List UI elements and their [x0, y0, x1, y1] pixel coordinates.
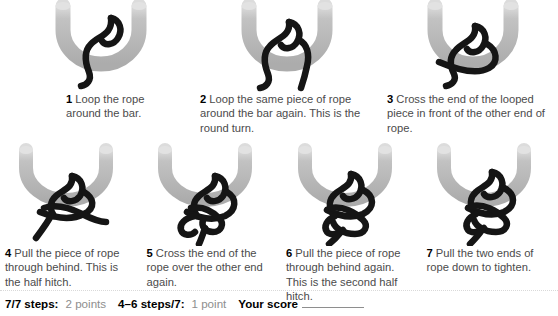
- step-3-number: 3: [387, 93, 393, 105]
- step-card-4: 4 Pull the piece of rope through behind.…: [0, 142, 140, 284]
- step-4-number: 4: [5, 247, 11, 259]
- step-4-figure: [0, 142, 140, 246]
- your-score-blank[interactable]: [302, 296, 364, 308]
- step-3-figure: [372, 0, 558, 92]
- step-5-number: 5: [147, 247, 153, 259]
- step-7-text: Pull the two ends of rope down to tighte…: [427, 247, 534, 273]
- step-1-text: Loop the rope around the bar.: [66, 93, 144, 119]
- knot-diagram-step-4: [10, 142, 130, 246]
- step-1-number: 1: [66, 93, 72, 105]
- step-3-text: Cross the end of the looped piece in fro…: [387, 93, 545, 134]
- your-score-label: Your score: [238, 297, 298, 310]
- step-5-caption: 5 Cross the end of the rope over the oth…: [140, 246, 280, 289]
- step-2-number: 2: [200, 93, 206, 105]
- knot-instruction-sheet: 1 Loop the rope around the bar.: [0, 0, 558, 316]
- step-6-text: Pull the piece of rope through behind ag…: [286, 247, 400, 302]
- knot-diagram-step-1: [41, 0, 165, 92]
- step-card-1: 1 Loop the rope around the bar.: [0, 0, 186, 140]
- step-7-figure: [419, 142, 558, 246]
- knot-diagram-step-6: [289, 142, 409, 246]
- knot-diagram-step-7: [428, 142, 548, 246]
- step-card-3: 3 Cross the end of the looped piece in f…: [372, 0, 558, 140]
- score-bar: 7/7 steps:2 points4–6 steps/7:1 pointYou…: [5, 296, 553, 311]
- step-7-number: 7: [427, 247, 433, 259]
- step-card-6: 6 Pull the piece of rope through behind …: [279, 142, 419, 284]
- step-2-caption: 2 Loop the same piece of rope around the…: [186, 92, 372, 135]
- steps-row-bottom: 4 Pull the piece of rope through behind.…: [0, 142, 558, 284]
- step-card-5: 5 Cross the end of the rope over the oth…: [140, 142, 280, 284]
- knot-diagram-step-3: [413, 0, 537, 92]
- knot-diagram-step-2: [227, 0, 351, 92]
- step-1-caption: 1 Loop the rope around the bar.: [0, 92, 186, 121]
- step-5-figure: [140, 142, 280, 246]
- score-partial-label: 4–6 steps/7:: [118, 297, 184, 310]
- step-7-caption: 7 Pull the two ends of rope down to tigh…: [419, 246, 558, 275]
- score-full-label: 7/7 steps:: [5, 297, 59, 310]
- step-3-caption: 3 Cross the end of the looped piece in f…: [372, 92, 558, 135]
- step-5-text: Cross the end of the rope over the other…: [147, 247, 263, 288]
- step-6-caption: 6 Pull the piece of rope through behind …: [279, 246, 419, 304]
- step-2-figure: [186, 0, 372, 92]
- step-4-caption: 4 Pull the piece of rope through behind.…: [0, 246, 140, 289]
- score-partial-value: 1 point: [192, 297, 227, 310]
- step-4-text: Pull the piece of rope through behind. T…: [5, 247, 119, 288]
- knot-diagram-step-5: [149, 142, 269, 246]
- score-divider: [0, 290, 558, 292]
- step-6-figure: [279, 142, 419, 246]
- step-2-text: Loop the same piece of rope around the b…: [200, 93, 360, 134]
- step-6-number: 6: [286, 247, 292, 259]
- step-card-2: 2 Loop the same piece of rope around the…: [186, 0, 372, 140]
- step-card-7: 7 Pull the two ends of rope down to tigh…: [419, 142, 558, 284]
- steps-row-top: 1 Loop the rope around the bar.: [0, 0, 558, 140]
- score-full-value: 2 points: [66, 297, 107, 310]
- step-1-figure: [0, 0, 186, 92]
